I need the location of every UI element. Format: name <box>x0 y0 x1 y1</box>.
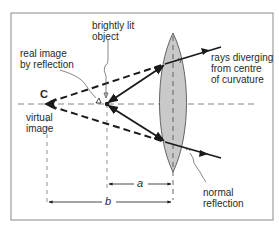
normal-reflection-label: normal reflection <box>203 187 244 209</box>
object-leader <box>104 40 108 96</box>
rays-label: rays diverging from centre of curvature <box>211 52 273 85</box>
real-image-leader <box>60 70 96 98</box>
normal-leader <box>190 153 206 182</box>
real-image-marker <box>96 98 101 103</box>
virtual-image-label: virtual image <box>26 112 53 134</box>
virtual-ray-bottom <box>50 106 165 142</box>
dimension-a-label: a <box>137 178 143 189</box>
center-label: C <box>40 89 48 100</box>
ray-object-to-lens-top <box>109 66 163 102</box>
outgoing-ray-bottom-arrow <box>199 150 208 157</box>
dimension-b-label: b <box>105 196 111 207</box>
real-image-label: real image by reflection <box>20 48 74 70</box>
object-point <box>105 102 109 106</box>
ray-object-to-lens-bottom <box>109 106 163 140</box>
object-label: brightly lit object <box>92 20 134 42</box>
